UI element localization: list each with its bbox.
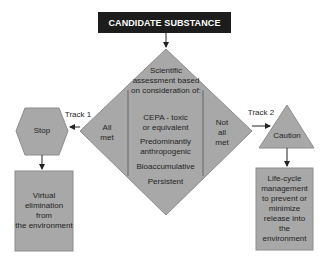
caution-label: Caution [262, 131, 312, 141]
assessment-intro: Scientific assessment based on considera… [121, 66, 211, 96]
criterion-anthropogenic: Predominantly anthropogenic [128, 137, 203, 157]
stop-label: Stop [16, 126, 68, 136]
intro-line: assessment based [121, 76, 211, 86]
criterion-bioaccumulative: Bioaccumulative [128, 162, 203, 172]
outcome-all-met: All met [92, 123, 122, 143]
criterion-persistent: Persistent [128, 177, 203, 187]
track2-label: Track 2 [243, 108, 279, 118]
lifecycle-text: Life-cycle management to prevent or mini… [256, 168, 313, 250]
intro-line: Scientific [121, 66, 211, 76]
criteria-list: CEPA - toxic or equivalent Predominantly… [128, 113, 203, 187]
criterion-cepa-toxic: CEPA - toxic or equivalent [128, 113, 203, 133]
candidate-substance-header: CANDIDATE SUBSTANCE [98, 12, 231, 33]
track1-label: Track 1 [60, 110, 96, 120]
elimination-text: Virtual elimination from the environment [15, 171, 73, 251]
outcome-not-all-met: Not all met [207, 118, 237, 148]
intro-line: on consideration of: [121, 86, 211, 96]
